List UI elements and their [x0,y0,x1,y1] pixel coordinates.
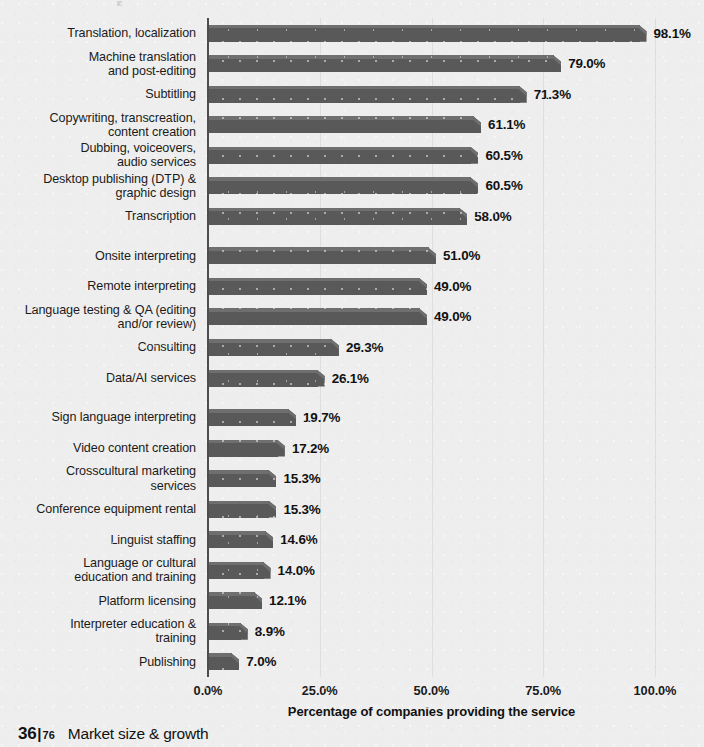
bar-body-face [208,595,255,609]
bar-row: Interpreter education & training8.9% [0,616,704,646]
bar-zone: 51.0% [208,241,704,271]
bar [208,147,478,164]
bar-body-face [208,211,460,225]
bar-body-face [208,373,318,387]
x-tick-label: 75.0% [525,683,561,698]
bar-row: Onsite interpreting51.0% [0,241,704,271]
bar-body-face [208,89,520,103]
bar [208,440,285,457]
bar-body-face [208,281,420,295]
bar-row: Data/AI services26.1% [0,363,704,393]
category-label: Copywriting, transcreation, content crea… [0,111,204,139]
bar [208,308,427,325]
bar-top-face [208,440,278,444]
x-tick-label: 50.0% [414,683,450,698]
page-scan-artifact [117,1,122,6]
bar-row: Crosscultural marketing services15.3% [0,464,704,494]
bar [208,531,273,548]
category-label: Remote interpreting [0,279,204,293]
category-label: Consulting [0,340,204,354]
bar [208,208,467,225]
bar-value-label: 8.9% [255,624,285,639]
bar-row: Linguist staffing14.6% [0,525,704,555]
bar-row: Transcription58.0% [0,201,704,231]
bar [208,623,248,640]
bar-body-face [208,656,232,670]
footer-page-total: 76 [43,729,55,741]
bar [208,25,647,42]
category-label: Machine translation and post-editing [0,50,204,78]
bar-top-face [208,308,420,312]
bar-top-face [208,409,289,413]
bar-value-label: 7.0% [246,654,276,669]
bar-value-label: 29.3% [346,340,383,355]
bar-zone: 26.1% [208,363,704,393]
bar [208,177,478,194]
bar-zone: 60.5% [208,140,704,170]
y-axis-line [207,18,209,677]
bar-top-face [208,147,471,151]
bar-value-label: 14.0% [278,563,315,578]
bar-value-label: 17.2% [292,441,329,456]
bar-value-label: 58.0% [474,209,511,224]
bar-zone: 17.2% [208,433,704,463]
bar-zone: 60.5% [208,171,704,201]
bar-zone: 14.0% [208,555,704,585]
bar-body-face [208,342,332,356]
bar [208,501,276,518]
bar-top-face [208,278,420,282]
bar [208,116,481,133]
bar-body-face [208,119,474,133]
bar-value-label: 19.7% [303,410,340,425]
bar-body-face [208,180,471,194]
bar-zone: 14.6% [208,525,704,555]
bar [208,247,436,264]
bar-zone: 98.1% [208,18,704,48]
bar-zone: 79.0% [208,49,704,79]
category-label: Conference equipment rental [0,502,204,516]
footer-section-title: Market size & growth [68,725,209,743]
bar-value-label: 15.3% [283,502,320,517]
bar-row: Copywriting, transcreation, content crea… [0,110,704,140]
bar-top-face [208,25,640,29]
category-label: Crosscultural marketing services [0,464,204,492]
bar-value-label: 60.5% [485,148,522,163]
bar [208,55,561,72]
bar-body-face [208,250,429,264]
bar-row: Platform licensing12.1% [0,586,704,616]
bar-zone: 49.0% [208,271,704,301]
bar-value-label: 98.1% [654,26,691,41]
x-axis-title: Percentage of companies providing the se… [208,704,655,719]
bar-top-face [208,470,269,474]
bar-value-label: 14.6% [280,532,317,547]
bar-zone: 7.0% [208,647,704,677]
bar-zone: 8.9% [208,616,704,646]
bar-top-face [208,55,554,59]
bar-body-face [208,28,640,42]
bar-top-face [208,86,520,90]
bar-row: Language or cultural education and train… [0,555,704,585]
bar-value-label: 71.3% [534,87,571,102]
bar-value-label: 60.5% [485,178,522,193]
category-label: Sign language interpreting [0,410,204,424]
bar-body-face [208,412,289,426]
bar-body-face [208,58,554,72]
bar-row: Desktop publishing (DTP) & graphic desig… [0,171,704,201]
bar [208,86,527,103]
bar-value-label: 26.1% [332,371,369,386]
bar-row: Dubbing, voiceovers, audio services60.5% [0,140,704,170]
footer-page-separator: | [37,725,41,742]
bar-top-face [208,531,266,535]
bar-row: Conference equipment rental15.3% [0,494,704,524]
category-label: Interpreter education & training [0,617,204,645]
category-label: Translation, localization [0,26,204,40]
bar-zone: 19.7% [208,403,704,433]
bar-top-face [208,501,269,505]
category-label: Platform licensing [0,594,204,608]
bar-top-face [208,339,332,343]
category-label: Onsite interpreting [0,249,204,263]
bar-zone: 49.0% [208,302,704,332]
bar [208,592,262,609]
category-label: Video content creation [0,441,204,455]
bar-body-face [208,473,269,487]
